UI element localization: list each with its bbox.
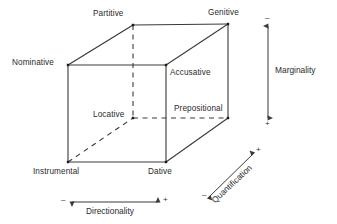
axis-sign-marginality-minus: – [265, 14, 269, 22]
axis-sign-directionality-plus: + [163, 196, 168, 204]
axis-sign-directionality-minus: – [61, 196, 65, 204]
vertex-dot-locative [132, 117, 134, 119]
vertex-label-instrumental: Instrumental [33, 168, 79, 176]
axis-sign-quantification-minus: – [202, 191, 206, 199]
axis-label-directionality: Directionality [86, 207, 134, 215]
edge-nominative-partitive [68, 25, 133, 65]
vertex-label-partitive: Partitive [93, 10, 123, 18]
edge-instrumental-locative [68, 118, 133, 162]
vertex-label-dative: Dative [148, 168, 172, 176]
vertex-label-locative: Locative [93, 111, 124, 119]
edge-accusative-genitive [166, 24, 228, 65]
vertex-dot-nominative [67, 64, 69, 66]
vertex-dot-partitive [132, 24, 134, 26]
cube-graphic [0, 0, 337, 224]
vertex-dot-instrumental [67, 161, 69, 163]
axis-sign-marginality-plus: + [265, 120, 270, 128]
edge-partitive-genitive [133, 24, 228, 25]
edge-dative-prepositional [166, 118, 228, 162]
vertex-dot-genitive [227, 23, 229, 25]
axis-label-marginality: Marginality [275, 66, 316, 74]
vertex-dot-dative [165, 161, 167, 163]
vertex-dot-prepositional [227, 117, 229, 119]
vertex-label-accusative: Accusative [170, 69, 211, 77]
vertex-label-nominative: Nominative [12, 59, 54, 67]
vertex-label-prepositional: Prepositional [173, 105, 224, 113]
vertex-label-genitive: Genitive [208, 9, 239, 17]
axis-sign-quantification-plus: + [256, 146, 261, 154]
case-cube-diagram: Partitive Genitive Nominative Accusative… [0, 0, 337, 224]
vertex-dot-accusative [165, 64, 167, 66]
